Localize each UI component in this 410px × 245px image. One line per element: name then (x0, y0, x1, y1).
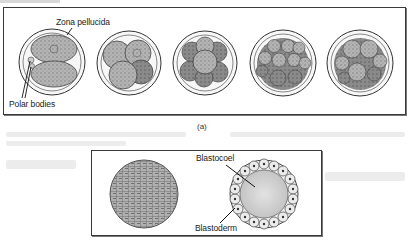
label-zona-pellucida: Zona pellucida (56, 17, 110, 27)
bleed-through-text (6, 141, 126, 146)
bleed-through-text (6, 160, 76, 169)
label-blastoderm: Blastoderm (195, 223, 237, 233)
embryo-morula (327, 30, 393, 96)
embryo-2-cell (19, 28, 85, 98)
caption-panel-a: (a) (197, 122, 207, 131)
bleed-through-text (325, 172, 405, 181)
label-polar-bodies: Polar bodies (9, 99, 55, 109)
blastula-cross-section (220, 159, 298, 229)
panel-a-cleavage-stages: Zona pellucida Polar bodies (3, 7, 406, 115)
blastula-exterior (110, 160, 178, 228)
embryo-8-cell (173, 31, 237, 95)
bleed-through-text (230, 132, 405, 137)
label-blastocoel: Blastocoel (196, 153, 234, 163)
embryo-16-cell (250, 30, 316, 96)
embryo-4-cell (97, 31, 161, 95)
scan-artifact (0, 0, 60, 3)
bleed-through-text (6, 132, 186, 137)
panel-b-blastula: Blastocoel Blastoderm (91, 150, 322, 236)
